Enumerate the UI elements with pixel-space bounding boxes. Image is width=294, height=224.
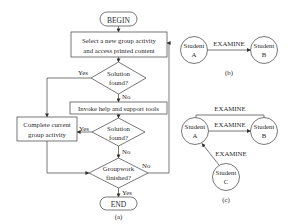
diagram-c: EXAMINE Student A Student B EXAMINE Stud… bbox=[182, 105, 278, 204]
decision3-line1: Groupwork bbox=[103, 165, 135, 172]
decision1-line2: found? bbox=[109, 79, 128, 86]
decision1-no-label: No bbox=[122, 93, 131, 100]
diagram-b: Student A Student B EXAMINE (b) bbox=[181, 37, 278, 78]
decision-solution-found-2 bbox=[92, 118, 145, 146]
c-node-b-line2: B bbox=[262, 132, 267, 139]
invoke-box-label: Invoke help and support tools bbox=[78, 105, 159, 112]
b-node-a-line1: Student bbox=[184, 42, 205, 49]
c-edge-top-label: EXAMINE bbox=[214, 105, 245, 112]
c-node-a-line2: A bbox=[193, 132, 198, 139]
figure: BEGIN Select a new group activity and ac… bbox=[0, 0, 294, 224]
c-node-c-line1: Student bbox=[216, 169, 237, 176]
b-node-b-line2: B bbox=[262, 51, 267, 58]
caption-b: (b) bbox=[225, 69, 233, 77]
select-box-line1: Select a new group activity bbox=[82, 37, 157, 44]
b-node-a-line2: A bbox=[192, 51, 197, 58]
c-node-c-line2: C bbox=[224, 178, 229, 185]
complete-box-line1: Complete current bbox=[23, 121, 70, 128]
decision-groupwork-finished bbox=[89, 158, 148, 188]
decision2-yes-label: Yes bbox=[79, 125, 89, 132]
b-node-b-line1: Student bbox=[254, 42, 275, 49]
decision3-no-label: No bbox=[142, 162, 151, 169]
node-student-a bbox=[182, 118, 209, 145]
caption-c: (c) bbox=[222, 196, 230, 204]
decision1-line1: Solution bbox=[107, 70, 131, 77]
decision3-yes-label: Yes bbox=[122, 189, 132, 196]
begin-label: BEGIN bbox=[107, 16, 130, 25]
c-edge-ab-label: EXAMINE bbox=[214, 121, 245, 128]
arrow-complete-decision3 bbox=[47, 141, 89, 173]
c-node-b-line1: Student bbox=[254, 123, 275, 130]
node-student-c bbox=[213, 164, 240, 191]
node-student-a bbox=[181, 37, 208, 64]
b-edge-label: EXAMINE bbox=[213, 40, 244, 47]
caption-a: (a) bbox=[115, 213, 123, 221]
node-student-b bbox=[251, 37, 278, 64]
c-node-a-line1: Student bbox=[185, 123, 206, 130]
decision2-line2: found? bbox=[109, 134, 128, 141]
decision-solution-found-1 bbox=[91, 62, 146, 94]
flowchart: BEGIN Select a new group activity and ac… bbox=[17, 12, 169, 221]
select-box-line2: and access printed content bbox=[83, 47, 155, 54]
decision3-line2: finished? bbox=[106, 174, 131, 181]
complete-box-line2: group activity bbox=[28, 131, 67, 138]
end-label: END bbox=[111, 200, 127, 209]
decision1-yes-label: Yes bbox=[78, 69, 88, 76]
node-student-b bbox=[251, 118, 278, 145]
c-edge-ca-label: EXAMINE bbox=[215, 150, 246, 157]
decision2-line1: Solution bbox=[107, 125, 131, 132]
decision2-no-label: No bbox=[122, 148, 131, 155]
